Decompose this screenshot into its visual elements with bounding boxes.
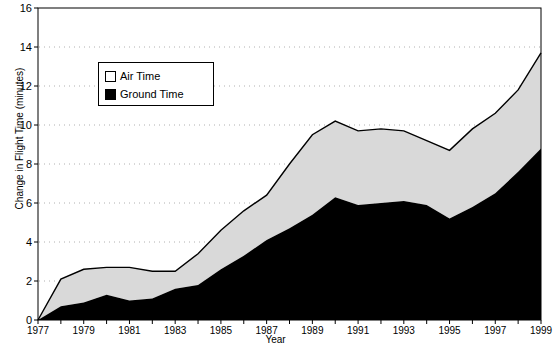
air-time-swatch-icon [105,71,116,82]
ground-time-swatch-icon [105,89,116,100]
legend-item-ground-time: Ground Time [105,85,207,103]
chart-legend: Air Time Ground Time [98,62,214,106]
legend-item-air-time: Air Time [105,67,207,85]
legend-label-air-time: Air Time [120,71,160,82]
legend-label-ground-time: Ground Time [120,89,184,100]
